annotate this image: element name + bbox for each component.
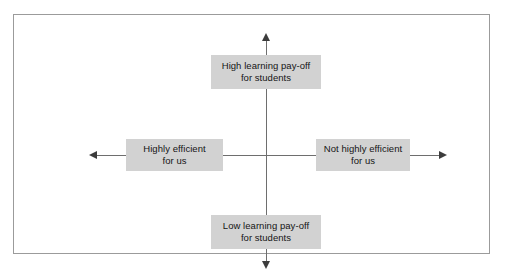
arrow-up-icon: [262, 33, 270, 41]
label-box-right: Not highly efficient for us: [316, 139, 410, 171]
diagram-frame: High learning pay-off for students Low l…: [13, 14, 490, 254]
label-bottom-line1: Low learning pay-off: [223, 220, 309, 233]
arrow-down-icon: [262, 261, 270, 269]
label-box-left: Highly efficient for us: [126, 139, 223, 171]
label-box-bottom: Low learning pay-off for students: [211, 215, 321, 249]
label-box-top: High learning pay-off for students: [211, 55, 321, 89]
label-right-line2: for us: [351, 155, 375, 168]
label-left-line1: Highly efficient: [143, 143, 205, 156]
label-left-line2: for us: [162, 155, 186, 168]
label-top-line1: High learning pay-off: [222, 60, 311, 73]
label-right-line1: Not highly efficient: [324, 143, 402, 156]
label-bottom-line2: for students: [241, 232, 291, 245]
quadrant-diagram: High learning pay-off for students Low l…: [0, 0, 507, 274]
arrow-left-icon: [89, 151, 97, 159]
label-top-line2: for students: [241, 72, 291, 85]
arrow-right-icon: [439, 151, 447, 159]
